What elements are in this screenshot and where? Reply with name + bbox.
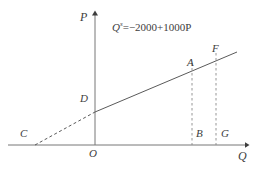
point-label-a: A [187,57,194,68]
point-label-b: B [196,128,203,139]
origin-label: O [89,148,97,159]
point-label-d: D [80,93,88,104]
point-label-f: F [212,43,219,54]
supply-equation: Qs=−2000+1000P [112,21,191,33]
supply-curve-figure: Qs=−2000+1000P P Q O A B C D F G [0,0,256,169]
equation-expression: =−2000+1000P [123,21,192,33]
supply-line-dashed-extension [35,112,95,145]
p-axis-label: P [80,11,87,23]
q-axis-label: Q [238,150,247,162]
equation-variable: Q [112,21,120,33]
point-label-c: C [20,128,27,139]
point-label-g: G [221,128,229,139]
